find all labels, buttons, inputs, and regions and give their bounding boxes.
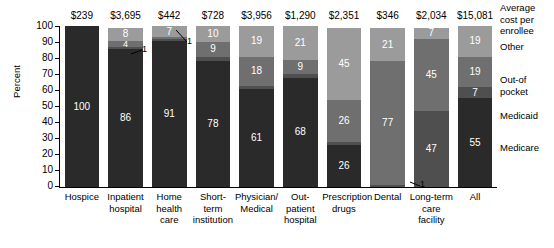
stacked-bar[interactable]: 21968 — [283, 26, 318, 187]
bar-segment-out-of-pocket[interactable]: 26 — [327, 100, 362, 142]
x-category-label: Prescriptiondrugs — [322, 191, 366, 226]
bar-column[interactable]: $15,0811919755 — [453, 26, 497, 187]
bar-segment-out-of-pocket[interactable]: 19 — [458, 57, 493, 88]
x-category-label-line: Prescription — [322, 191, 366, 203]
bar-segment-other[interactable]: 21 — [370, 28, 405, 62]
stacked-bar[interactable]: 74547 — [414, 26, 449, 187]
bar-segment-medicare[interactable]: 86 — [108, 49, 143, 187]
cost-per-enrollee-label: $442 — [147, 10, 191, 21]
bar-segment-medicare[interactable]: 91 — [152, 41, 187, 188]
stacked-bar-plot: $239100$3,6958486$442791$72810978$3,9561… — [60, 26, 497, 187]
x-category-label-line: Hospice — [60, 191, 104, 203]
legend-item-label-line: Medicare — [500, 142, 539, 154]
x-category-label: Homehealthcare — [147, 191, 191, 226]
bar-segment-other[interactable]: 8 — [108, 28, 143, 41]
x-category-label-line: drugs — [322, 203, 366, 215]
legend-item-label-line: pocket — [500, 86, 528, 98]
x-axis-category-labels: HospiceInpatienthospitalHomehealthcareSh… — [60, 191, 497, 226]
y-axis-ticks: 1009080706050403020100 — [46, 26, 60, 186]
legend-item-other[interactable]: Other — [500, 41, 524, 53]
x-category-label: Out-patienthospital — [278, 191, 322, 226]
cost-per-enrollee-label: $728 — [191, 10, 235, 21]
legend-item-out-of-pocket[interactable]: Out-ofpocket — [500, 74, 528, 97]
bar-segment-medicare[interactable]: 61 — [239, 89, 274, 187]
legend-item-medicare[interactable]: Medicare — [500, 142, 539, 154]
ann-inpatient-medicaid-text: 1 — [142, 44, 147, 54]
x-category-label-line: Home — [147, 191, 191, 203]
x-category-label-line: Physician/ — [235, 191, 279, 203]
bar-segment-out-of-pocket[interactable]: 18 — [239, 57, 274, 86]
bar-segment-other[interactable]: 19 — [458, 26, 493, 57]
bar-segment-other[interactable]: 21 — [283, 26, 318, 60]
chart-root: Percent 1009080706050403020100 $239100$3… — [0, 0, 554, 248]
x-category-label: Short-terminstitution — [191, 191, 235, 226]
y-axis-title: Percent — [11, 42, 22, 122]
y-tick-label: 40 — [27, 118, 53, 126]
x-category-label-line: All — [453, 191, 497, 203]
bar-segment-medicare[interactable]: 26 — [327, 145, 362, 187]
cost-per-enrollee-label: $2,351 — [322, 10, 366, 21]
bar-column[interactable]: $72810978 — [191, 26, 235, 187]
x-category-label: Physician/Medical — [235, 191, 279, 226]
x-category-label-line: institution — [191, 214, 235, 226]
legend-header: Averagecost perenrollee — [500, 2, 554, 37]
bar-column[interactable]: $2,351452626 — [322, 26, 366, 187]
bar-segment-other[interactable]: 7 — [414, 28, 449, 39]
legend-header-line: Average — [500, 2, 554, 14]
bar-column[interactable]: $3,956191861 — [235, 26, 279, 187]
x-category-label-line: Medical — [235, 203, 279, 215]
x-category-label: Hospice — [60, 191, 104, 226]
legend-item-medicaid[interactable]: Medicaid — [500, 110, 538, 122]
cost-per-enrollee-label: $15,081 — [453, 10, 497, 21]
legend-header-line: enrollee — [500, 25, 554, 37]
stacked-bar[interactable]: 1919755 — [458, 26, 493, 187]
legend-header-line: cost per — [500, 14, 554, 26]
x-category-label-line: Inpatient — [104, 191, 148, 203]
bar-column[interactable]: $239100 — [60, 26, 104, 187]
bar-segment-medicare[interactable]: 68 — [283, 78, 318, 187]
bar-segment-medicare[interactable]: 55 — [458, 98, 493, 187]
cost-per-enrollee-label: $239 — [60, 10, 104, 21]
y-tick-label: 20 — [27, 150, 53, 158]
y-tick-label: 100 — [27, 22, 53, 30]
bar-segment-other[interactable]: 10 — [196, 26, 231, 42]
cost-per-enrollee-label: $346 — [366, 10, 410, 21]
stacked-bar[interactable]: 100 — [65, 26, 100, 187]
y-tick-label: 90 — [27, 38, 53, 46]
bar-column[interactable]: $2,03474547 — [410, 26, 454, 187]
bar-segment-other[interactable]: 45 — [327, 28, 362, 100]
y-tick-label: 30 — [27, 134, 53, 142]
bar-segment-out-of-pocket[interactable]: 45 — [414, 39, 449, 111]
legend-item-label-line: Out-of — [500, 74, 528, 86]
y-tick-label: 10 — [27, 166, 53, 174]
bar-segment-medicare[interactable]: 100 — [65, 26, 100, 187]
y-tick-label: 70 — [27, 70, 53, 78]
x-category-label: Inpatienthospital — [104, 191, 148, 226]
legend-item-label-line: Other — [500, 41, 524, 53]
stacked-bar[interactable]: 10978 — [196, 26, 231, 187]
bar-segment-out-of-pocket[interactable]: 9 — [283, 60, 318, 74]
bar-column[interactable]: $3462177 — [366, 26, 410, 187]
x-category-label-line: hospital — [278, 214, 322, 226]
bar-segment-out-of-pocket[interactable]: 9 — [196, 42, 231, 56]
stacked-bar[interactable]: 191861 — [239, 26, 274, 187]
bar-column[interactable]: $1,29021968 — [278, 26, 322, 187]
bar-segment-other[interactable]: 19 — [239, 26, 274, 57]
cost-per-enrollee-label: $2,034 — [410, 10, 454, 21]
stacked-bar[interactable]: 452626 — [327, 26, 362, 187]
x-category-label-line: health — [147, 203, 191, 215]
ann-dental-medicaid-text: 1 — [420, 179, 425, 189]
stacked-bar[interactable]: 791 — [152, 26, 187, 187]
bar-segment-medicaid[interactable] — [370, 185, 405, 187]
x-category-label-line: patient — [278, 203, 322, 215]
x-category-label-line: term — [191, 203, 235, 215]
bar-segment-out-of-pocket[interactable]: 77 — [370, 61, 405, 185]
legend-item-label-line: Medicaid — [500, 110, 538, 122]
ann-homehealth-outofpocket-text: 1 — [187, 36, 192, 46]
y-tick-label: 80 — [27, 54, 53, 62]
bar-segment-medicaid[interactable]: 7 — [458, 87, 493, 98]
bar-segment-medicare[interactable]: 78 — [196, 61, 231, 187]
x-category-label: Long-termcarefacility — [410, 191, 454, 226]
stacked-bar[interactable]: 2177 — [370, 26, 405, 187]
cost-per-enrollee-label: $1,290 — [278, 10, 322, 21]
